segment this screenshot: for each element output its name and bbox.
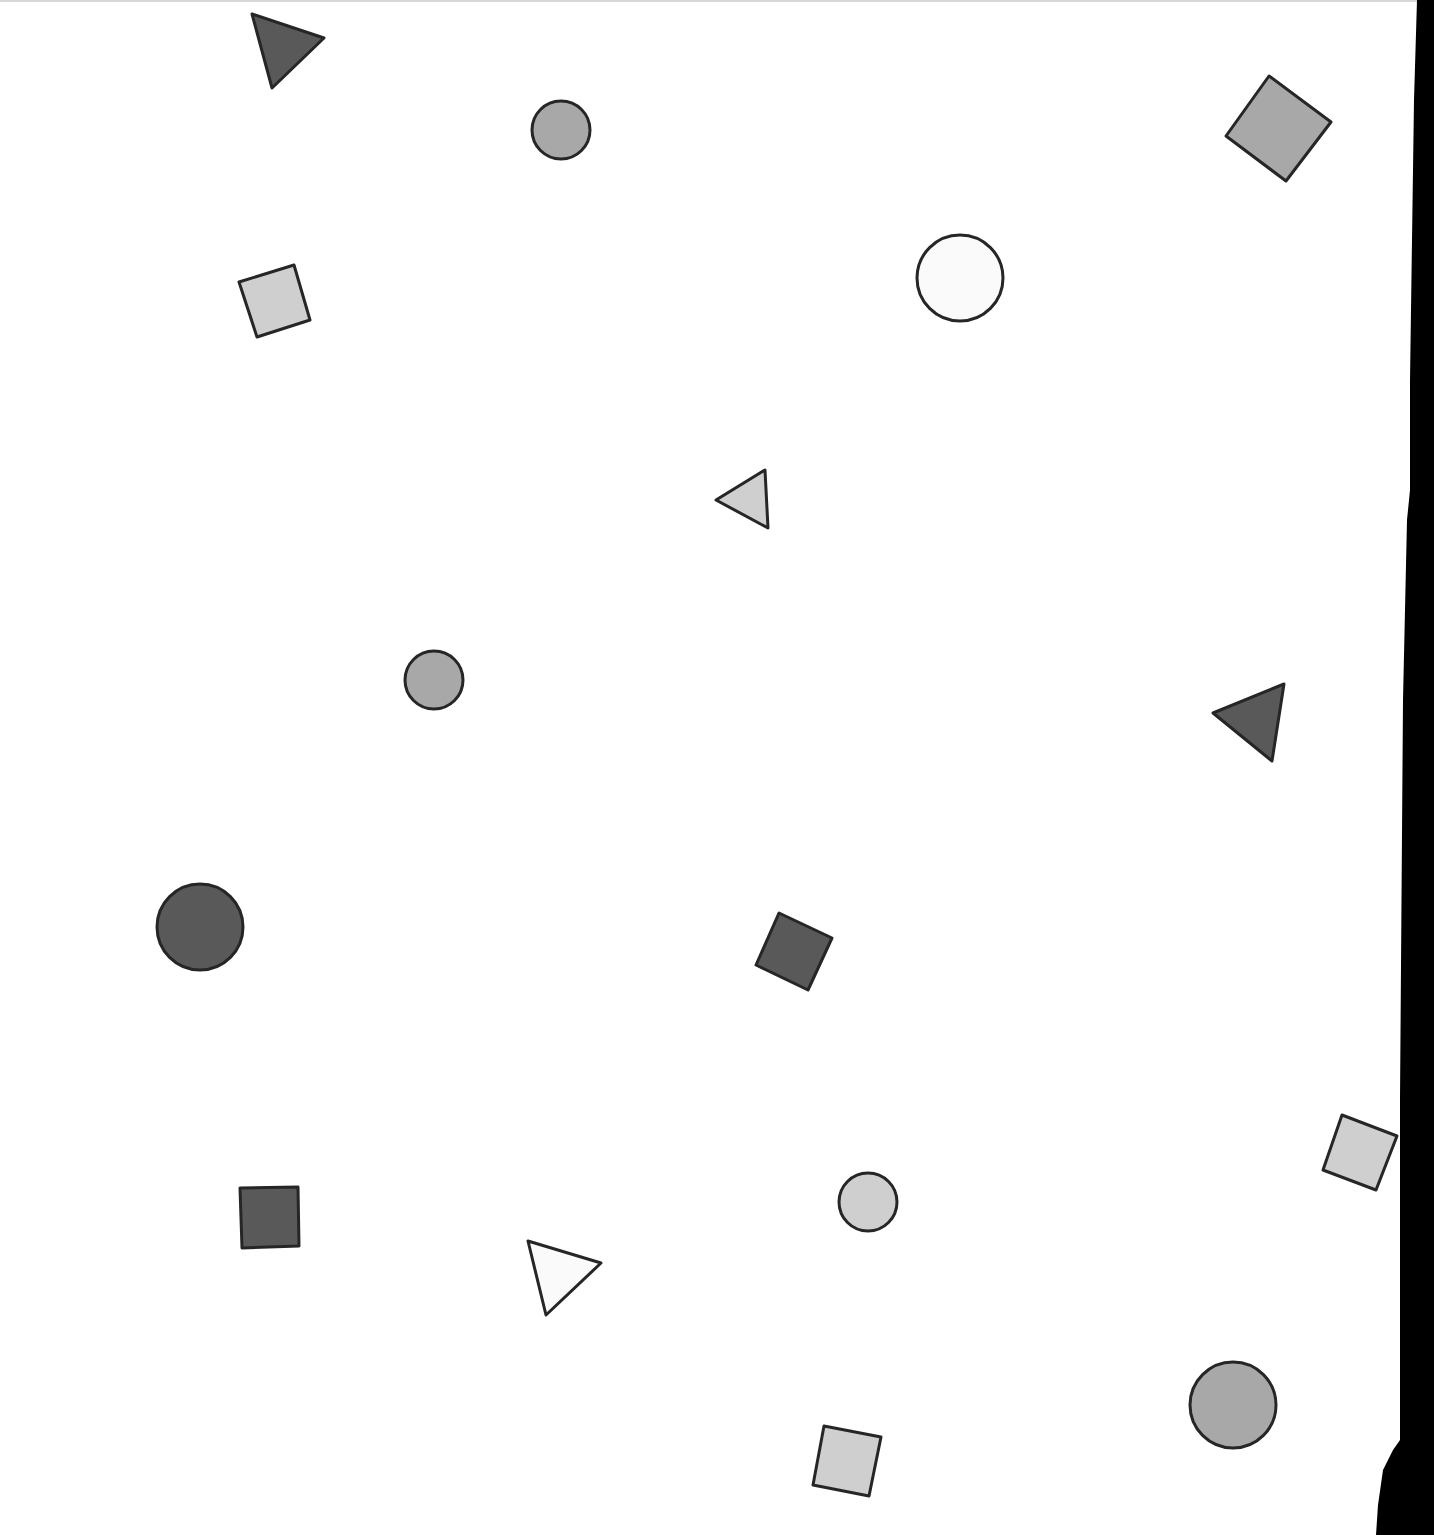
shapes-canvas xyxy=(0,0,1434,1535)
light-circle-shape xyxy=(839,1173,897,1231)
medium-circle-shape xyxy=(532,101,590,159)
scan-black-edge xyxy=(1376,0,1434,1535)
white-triangle-shape xyxy=(528,1241,601,1315)
dark-circle-shape xyxy=(157,884,243,970)
light-square-shape xyxy=(1323,1115,1397,1190)
light-square-shape xyxy=(239,265,310,337)
medium-square-shape xyxy=(1226,76,1331,181)
white-circle-shape xyxy=(917,235,1003,321)
medium-circle-shape xyxy=(1190,1362,1276,1448)
shape-layer xyxy=(157,14,1397,1496)
dark-square-shape xyxy=(240,1187,299,1248)
light-triangle-shape xyxy=(716,470,768,528)
dark-triangle-shape xyxy=(1213,684,1284,761)
dark-square-shape xyxy=(756,913,832,990)
dark-triangle-shape xyxy=(252,14,324,88)
medium-circle-shape xyxy=(405,651,463,709)
light-square-shape xyxy=(813,1426,881,1496)
